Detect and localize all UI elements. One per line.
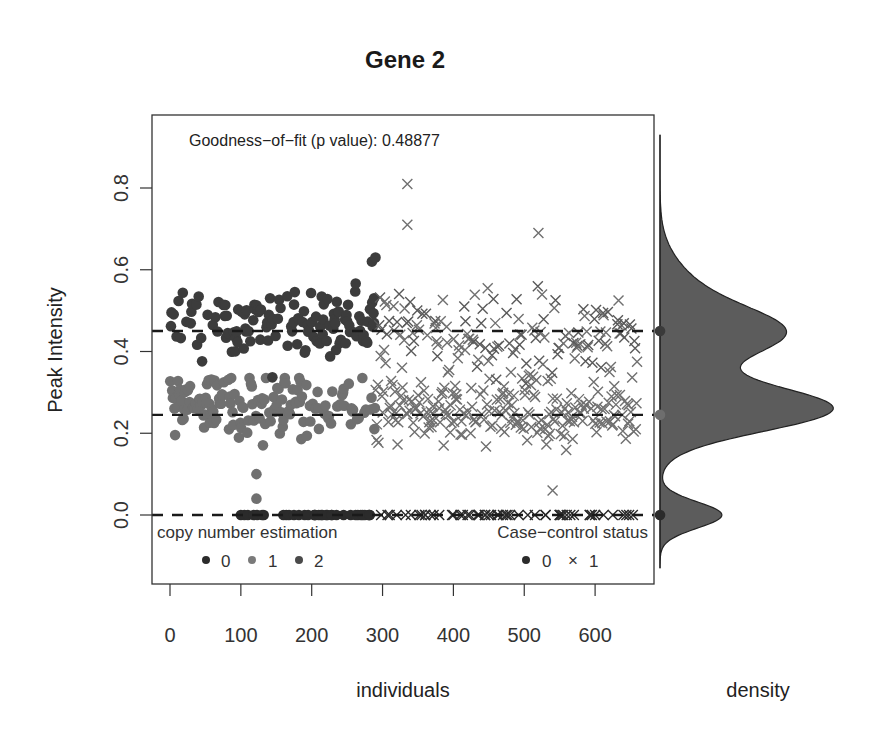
data-point-cross	[539, 333, 549, 343]
data-point-cross	[502, 308, 512, 318]
legend-cn1-label: 1	[268, 552, 277, 571]
data-point-cross	[561, 445, 571, 455]
data-point-cross	[548, 485, 558, 495]
x-tick-label: 400	[437, 624, 470, 646]
legend-case-control: Case−control status 0 × 1	[497, 523, 648, 571]
data-point-cross	[476, 318, 486, 328]
data-point-circle	[226, 373, 237, 384]
data-point-cross	[408, 418, 418, 428]
data-point-cross	[580, 311, 590, 321]
data-point-circle	[265, 416, 276, 427]
data-point-circle	[357, 373, 368, 384]
y-tick-label: 0.4	[110, 338, 132, 366]
data-point-cross	[499, 427, 509, 437]
data-point-cross	[610, 411, 620, 421]
data-point-cross	[531, 333, 541, 343]
legend-case-label: 1	[589, 552, 598, 571]
data-point-circle	[196, 333, 207, 344]
x-axis: 0100200300400500600	[164, 584, 611, 646]
data-point-cross	[442, 322, 452, 332]
data-point-cross	[445, 427, 455, 437]
data-point-cross	[593, 387, 603, 397]
x-tick-label: 100	[224, 624, 257, 646]
data-point-cross	[467, 402, 477, 412]
data-point-cross	[439, 440, 449, 450]
y-axis: 0.00.20.40.60.8	[110, 174, 152, 529]
data-point-cross	[394, 289, 404, 299]
reference-lines	[152, 331, 654, 515]
data-point-circle	[282, 340, 293, 351]
data-point-cross	[632, 357, 642, 367]
data-point-cross	[588, 416, 598, 426]
data-point-cross	[514, 314, 524, 324]
data-point-cross	[433, 340, 443, 350]
data-point-circle	[321, 336, 332, 347]
data-point-cross	[541, 440, 551, 450]
data-point-cross	[381, 300, 391, 310]
data-point-circle	[297, 391, 308, 402]
data-point-cross	[392, 317, 402, 327]
data-point-cross	[490, 318, 500, 328]
data-point-circle	[299, 306, 310, 317]
data-point-cross	[582, 327, 592, 337]
data-point-circle	[331, 296, 342, 307]
data-point-circle	[368, 308, 379, 319]
scatter-points	[165, 179, 642, 520]
data-point-cross	[399, 335, 409, 345]
y-tick-label: 0.6	[110, 256, 132, 284]
data-point-cross	[397, 363, 407, 373]
data-point-cross	[570, 354, 580, 364]
data-point-cross	[416, 377, 426, 387]
data-point-circle	[302, 431, 313, 442]
legend-dot-control-icon	[522, 556, 530, 564]
data-point-cross	[520, 390, 530, 400]
data-point-circle	[327, 386, 338, 397]
data-point-cross	[515, 340, 525, 350]
data-point-cross	[380, 296, 390, 306]
data-point-cross	[566, 388, 576, 398]
data-point-cross	[472, 362, 482, 372]
data-point-circle	[322, 294, 333, 305]
data-point-cross	[478, 386, 488, 396]
data-point-circle	[265, 293, 276, 304]
data-point-circle	[289, 299, 300, 310]
data-point-cross	[578, 416, 588, 426]
data-point-circle	[300, 345, 311, 356]
data-point-circle	[344, 378, 355, 389]
data-point-circle	[220, 300, 231, 311]
chart-title: Gene 2	[365, 46, 445, 73]
y-tick-label: 0.2	[110, 419, 132, 447]
data-point-cross	[521, 359, 531, 369]
data-point-circle	[170, 430, 181, 441]
data-point-circle	[259, 394, 270, 405]
y-tick-label: 0.8	[110, 174, 132, 202]
data-point-circle	[173, 376, 184, 387]
data-point-cross	[512, 294, 522, 304]
data-point-cross	[470, 290, 480, 300]
data-point-circle	[251, 469, 262, 480]
density-axis-label: density	[726, 679, 789, 701]
data-point-cross	[551, 295, 561, 305]
density-panel	[655, 135, 834, 568]
data-point-circle	[193, 291, 204, 302]
data-point-circle	[370, 252, 381, 263]
data-point-cross	[422, 330, 432, 340]
data-point-cross	[402, 220, 412, 230]
data-point-cross	[473, 355, 483, 365]
data-point-cross	[463, 510, 473, 520]
data-point-circle	[270, 331, 281, 342]
legend-cn0-label: 0	[221, 552, 230, 571]
data-point-cross	[589, 314, 599, 324]
data-point-circle	[305, 416, 316, 427]
y-axis-label: Peak Intensity	[44, 287, 66, 413]
data-point-cross	[609, 381, 619, 391]
data-point-circle	[185, 381, 196, 392]
data-point-cross	[533, 228, 543, 238]
x-tick-label: 300	[366, 624, 399, 646]
data-point-circle	[277, 394, 288, 405]
density-marker	[655, 510, 666, 521]
data-point-circle	[258, 440, 269, 451]
density-marker	[655, 326, 666, 337]
legend-cn2-label: 2	[314, 552, 323, 571]
legend-copy-number: copy number estimation 0 1 2	[157, 523, 337, 571]
